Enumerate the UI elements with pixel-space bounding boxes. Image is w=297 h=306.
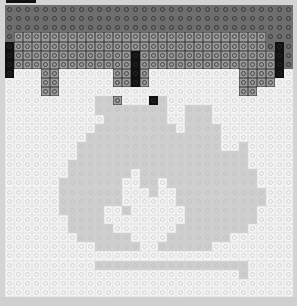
flame-brick [131,105,140,114]
background-brick [14,133,23,142]
medium-brick [23,60,32,69]
background-brick [68,288,77,297]
flame-brick [122,124,131,133]
flame-brick [95,169,104,178]
background-brick [86,69,95,78]
medium-brick [167,32,176,41]
background-brick [32,288,41,297]
flame-brick [194,160,203,169]
background-brick [32,224,41,233]
flame-brick [104,197,113,206]
background-brick [284,96,293,105]
flame-brick [104,224,113,233]
background-brick [23,279,32,288]
background-brick [158,87,167,96]
background-brick [257,105,266,114]
dark-band-brick [149,23,158,32]
background-brick [158,215,167,224]
medium-brick [185,51,194,60]
background-brick [167,288,176,297]
medium-brick [14,60,23,69]
background-brick [203,87,212,96]
background-brick [95,288,104,297]
background-brick [284,224,293,233]
bottom-frame-strip [0,297,297,306]
medium-brick [257,69,266,78]
dark-band-brick [176,23,185,32]
flame-brick [95,133,104,142]
background-brick [122,96,131,105]
background-brick [284,242,293,251]
flame-brick [176,142,185,151]
background-brick [5,124,14,133]
background-brick [275,78,284,87]
flame-brick [140,160,149,169]
flame-brick [59,206,68,215]
flame-brick [221,169,230,178]
background-brick [167,115,176,124]
background-brick [275,87,284,96]
medium-brick [50,87,59,96]
dark-band-brick [203,5,212,14]
background-brick [32,142,41,151]
background-brick [203,78,212,87]
medium-brick [50,51,59,60]
flame-brick [122,105,131,114]
flame-brick [185,242,194,251]
background-brick [257,206,266,215]
medium-brick [122,69,131,78]
dark-band-brick [77,23,86,32]
flame-brick [140,261,149,270]
background-brick [230,115,239,124]
dark-band-brick [104,5,113,14]
flame-brick [212,142,221,151]
flame-brick [203,169,212,178]
background-brick [68,251,77,260]
background-brick [203,279,212,288]
background-brick [32,87,41,96]
background-brick [50,288,59,297]
background-brick [230,270,239,279]
black-brick [131,60,140,69]
flame-brick [113,142,122,151]
dark-band-brick [266,14,275,23]
background-brick [104,279,113,288]
background-brick [59,78,68,87]
flame-brick [185,169,194,178]
background-brick [77,133,86,142]
medium-brick [257,60,266,69]
black-brick [5,51,14,60]
background-brick [68,261,77,270]
medium-brick [239,87,248,96]
medium-brick [50,60,59,69]
medium-brick [230,42,239,51]
background-brick [59,115,68,124]
medium-brick [86,42,95,51]
flame-brick [113,160,122,169]
flame-brick [257,188,266,197]
background-brick [176,69,185,78]
background-brick [284,115,293,124]
medium-brick [239,78,248,87]
background-brick [185,69,194,78]
medium-brick [32,32,41,41]
dark-band-brick [95,23,104,32]
background-brick [248,270,257,279]
background-brick [284,261,293,270]
background-brick [212,96,221,105]
flame-brick [185,142,194,151]
background-brick [50,188,59,197]
background-brick [140,96,149,105]
dark-band-brick [5,23,14,32]
background-brick [50,279,59,288]
background-brick [221,251,230,260]
dark-band-brick [284,32,293,41]
background-brick [86,105,95,114]
background-brick [257,124,266,133]
background-brick [14,197,23,206]
background-brick [86,96,95,105]
flame-brick [230,197,239,206]
flame-brick [212,124,221,133]
flame-brick [212,261,221,270]
background-brick [284,151,293,160]
